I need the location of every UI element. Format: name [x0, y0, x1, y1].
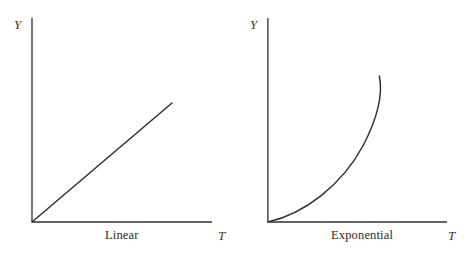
chart-panel-exponential: Y T Exponential	[234, 0, 468, 269]
figure-container: Y T Linear Y T Exponential	[0, 0, 469, 269]
exponential-data-curve	[268, 76, 381, 222]
exponential-y-axis-label: Y	[250, 18, 257, 31]
chart-panel-linear: Y T Linear	[0, 0, 234, 269]
linear-data-curve	[32, 103, 172, 222]
linear-y-axis-label: Y	[14, 18, 21, 31]
linear-caption: Linear	[105, 229, 139, 242]
exponential-caption: Exponential	[331, 229, 393, 242]
linear-x-axis-label: T	[218, 229, 225, 242]
exponential-x-axis-label: T	[448, 229, 455, 242]
